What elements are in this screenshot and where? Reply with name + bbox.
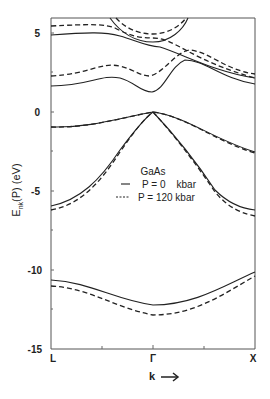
- x-axis-label-text: k: [149, 370, 156, 382]
- x-tick-L: L: [50, 353, 56, 364]
- legend-title: GaAs: [140, 166, 165, 177]
- x-tick-Gamma: Γ: [150, 353, 156, 364]
- band-structure-chart: 5 0 -5 -10 -15 L Γ X k Enk(P) (eV): [0, 0, 270, 399]
- series-p0-solid: [51, 18, 255, 305]
- y-axis-label: Enk(P) (eV): [10, 163, 24, 216]
- y-tick-m5: -5: [31, 186, 40, 197]
- x-ticks: [102, 345, 204, 349]
- y-axis-label-E: E: [10, 209, 22, 216]
- y-axis-label-rest: (P) (eV): [10, 163, 22, 202]
- y-tick-m10: -10: [28, 265, 43, 276]
- y-tick-0: 0: [34, 107, 40, 118]
- legend-p0-label: P = 0 kbar: [142, 179, 197, 190]
- y-tick-5: 5: [34, 28, 40, 39]
- y-tick-m15: -15: [28, 344, 43, 355]
- legend-p120-label: P = 120 kbar: [138, 192, 195, 203]
- x-tick-X: X: [250, 353, 257, 364]
- arrow-right-icon: [161, 373, 178, 381]
- svg-text:Enk(P) (eV): Enk(P) (eV): [10, 163, 24, 216]
- x-axis-label: k: [149, 370, 178, 382]
- legend: GaAs P = 0 kbar P = 120 kbar: [116, 166, 197, 203]
